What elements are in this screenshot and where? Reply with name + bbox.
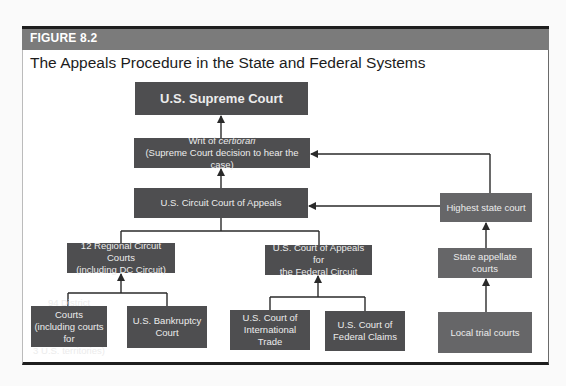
node-label: (Supreme Court decision to hear the case…: [136, 147, 308, 171]
node-label: the Federal Circuit: [280, 266, 358, 278]
node-state-appellate-courts: State appellate courts: [438, 248, 532, 278]
node-label: Local trial courts: [450, 327, 519, 339]
node-label: U.S. Court of: [338, 319, 393, 331]
node-label: U.S. Bankruptcy: [133, 315, 202, 327]
node-label: U.S. Circuit Court of Appeals: [161, 197, 282, 209]
node-federal-circuit: U.S. Court of Appeals for the Federal Ci…: [265, 245, 372, 275]
node-label: Highest state court: [446, 202, 525, 214]
node-label: U.S. Supreme Court: [160, 93, 283, 105]
node-label: 3 U.S. territories): [33, 345, 105, 357]
node-label: (including DC Circuit): [76, 264, 166, 276]
node-label: 12 Regional Circuit Courts: [69, 240, 173, 264]
node-international-trade: U.S. Court of International Trade: [230, 310, 310, 350]
node-district-courts: 94 District Courts (including courts for…: [31, 306, 107, 347]
node-highest-state-court: Highest state court: [440, 193, 532, 222]
node-label: Federal Claims: [333, 331, 397, 343]
node-bankruptcy-court: U.S. Bankruptcy Court: [127, 306, 207, 348]
node-label: State appellate courts: [440, 251, 530, 275]
node-label: International Trade: [232, 324, 308, 348]
node-supreme-court: U.S. Supreme Court: [135, 82, 308, 115]
node-federal-claims: U.S. Court of Federal Claims: [325, 311, 405, 351]
node-label: Writ of certiorari: [189, 135, 256, 147]
node-label: U.S. Court of: [243, 312, 298, 324]
node-label: (including courts for: [33, 321, 105, 345]
node-label: Court: [155, 327, 178, 339]
node-label: U.S. Court of Appeals for: [267, 242, 370, 266]
node-label: 94 District Courts: [33, 297, 105, 321]
node-circuit-court-of-appeals: U.S. Circuit Court of Appeals: [134, 188, 308, 218]
node-regional-circuit-courts: 12 Regional Circuit Courts (including DC…: [67, 243, 175, 273]
node-writ-of-certiorari: Writ of certiorari (Supreme Court decisi…: [134, 138, 310, 168]
node-local-trial-courts: Local trial courts: [438, 312, 532, 353]
